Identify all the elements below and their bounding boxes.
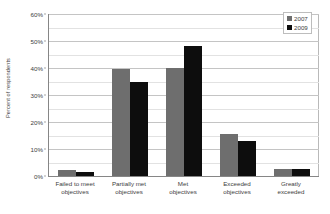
legend-entry-2009[interactable]: 2009 [287,24,308,31]
y-axis-tick-label: 60% [31,11,43,18]
bar-2009-4[interactable] [238,141,256,176]
bar-2007-4[interactable] [220,134,238,176]
x-axis-tick-label-line: Greatly [264,180,318,188]
bars-layer [49,14,319,176]
legend-entry-2007[interactable]: 2007 [287,15,308,22]
chart-legend: 20072009 [283,12,312,34]
legend-label: 2009 [294,24,308,31]
x-axis-tick-label: Exceededobjectives [210,180,264,197]
x-axis-tick-label-line: Met [156,180,210,188]
legend-label: 2007 [294,15,308,22]
y-axis-tick-label: 0% [34,173,43,180]
bar-2009-2[interactable] [130,82,148,176]
bar-2007-1[interactable] [58,170,76,176]
y-axis-tick-mark [44,68,46,69]
bar-2007-3[interactable] [166,68,184,176]
y-axis-tick-mark [44,14,46,15]
x-axis-tick-label-line: Failed to meet [48,180,102,188]
x-axis-tick-labels: Failed to meetobjectivesPartially metobj… [48,180,318,210]
y-axis-tick-label: 10% [31,146,43,153]
bar-group [166,14,202,176]
x-axis-tick-label-line: Exceeded [210,180,264,188]
legend-swatch-icon [287,25,292,30]
y-axis-tick-label: 50% [31,38,43,45]
legend-swatch-icon [287,16,292,21]
bar-2007-2[interactable] [112,69,130,176]
y-axis-tick-mark [44,149,46,150]
y-axis-tick-label: 30% [31,92,43,99]
y-axis-title: Percent of respondents [0,0,16,176]
y-axis-tick-labels: 0%10%20%30%40%50%60% [16,14,46,176]
bar-group [274,14,310,176]
bar-chart: Percent of respondents 0%10%20%30%40%50%… [0,0,330,214]
y-axis-tick-label: 20% [31,119,43,126]
x-axis-tick-label-line: exceeded [264,188,318,196]
y-axis-tick-mark [44,95,46,96]
x-axis-tick-label-line: Partially met [102,180,156,188]
x-axis-tick-label: Metobjectives [156,180,210,197]
x-axis-tick-label: Greatlyexceeded [264,180,318,197]
y-axis-tick-label: 40% [31,65,43,72]
x-axis-tick-label: Partially metobjectives [102,180,156,197]
bar-2009-1[interactable] [76,172,94,176]
y-axis-tick-mark [44,41,46,42]
x-axis-tick-label: Failed to meetobjectives [48,180,102,197]
bar-2009-5[interactable] [292,169,310,176]
x-axis-tick-label-line: objectives [102,188,156,196]
y-axis-tick-mark [44,176,46,177]
bar-2007-5[interactable] [274,169,292,176]
bar-group [112,14,148,176]
bar-group [58,14,94,176]
y-axis-tick-mark [44,122,46,123]
y-axis-title-text: Percent of respondents [5,58,11,118]
bar-2009-3[interactable] [184,46,202,176]
x-axis-tick-label-line: objectives [48,188,102,196]
plot-area [48,14,319,177]
bar-group [220,14,256,176]
x-axis-tick-label-line: objectives [156,188,210,196]
x-axis-tick-label-line: objectives [210,188,264,196]
